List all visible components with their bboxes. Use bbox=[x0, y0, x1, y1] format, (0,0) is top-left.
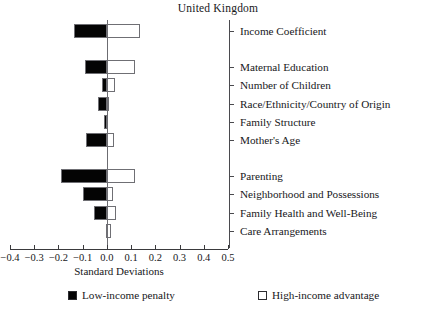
category-bracket-tick bbox=[229, 176, 234, 177]
x-axis-tick bbox=[180, 245, 181, 249]
category-label: Neighborhood and Possessions bbox=[240, 188, 379, 200]
x-axis-tick bbox=[131, 245, 132, 249]
category-label: Care Arrangements bbox=[240, 225, 327, 237]
legend-label: High-income advantage bbox=[272, 289, 379, 301]
category-label: Maternal Education bbox=[240, 61, 329, 73]
bar-row bbox=[10, 169, 228, 183]
category-label: Family Structure bbox=[240, 116, 316, 128]
category-label-panel: Income CoefficientMaternal EducationNumb… bbox=[229, 18, 436, 253]
legend-label: Low-income penalty bbox=[82, 289, 175, 301]
bar-segment-high-income-advantage bbox=[107, 133, 114, 147]
category-bracket-tick bbox=[229, 104, 234, 105]
legend-item[interactable]: Low-income penalty bbox=[68, 289, 175, 301]
category-label: Family Health and Well-Being bbox=[240, 207, 377, 219]
chart-legend: Low-income penaltyHigh-income advantage bbox=[0, 289, 436, 311]
bar-row bbox=[10, 78, 228, 92]
category-label: Parenting bbox=[240, 170, 283, 182]
bar-segment-high-income-advantage bbox=[107, 78, 115, 92]
bar-row bbox=[10, 224, 228, 238]
chart-figure: United Kingdom Standard Deviations Incom… bbox=[0, 0, 436, 315]
bar-segment-low-income-penalty bbox=[61, 169, 107, 183]
bar-row bbox=[10, 60, 228, 74]
bar-segment-high-income-advantage bbox=[107, 24, 140, 38]
x-axis-tick bbox=[10, 245, 11, 249]
x-axis-tick bbox=[155, 245, 156, 249]
bar-segment-low-income-penalty bbox=[85, 60, 107, 74]
bar-row bbox=[10, 187, 228, 201]
filled-square-icon bbox=[68, 291, 77, 300]
category-label: Number of Children bbox=[240, 79, 331, 91]
category-label: Income Coefficient bbox=[240, 25, 326, 37]
bar-segment-high-income-advantage bbox=[107, 224, 111, 238]
x-axis-tick bbox=[107, 245, 108, 249]
bar-segment-high-income-advantage bbox=[107, 206, 116, 220]
bar-segment-low-income-penalty bbox=[98, 97, 106, 111]
hollow-square-icon bbox=[258, 291, 267, 300]
legend-item[interactable]: High-income advantage bbox=[258, 289, 379, 301]
bar-segment-high-income-advantage bbox=[107, 187, 113, 201]
plot-area bbox=[10, 20, 228, 249]
bar-segment-high-income-advantage bbox=[107, 97, 109, 111]
bar-row bbox=[10, 133, 228, 147]
x-axis-tick bbox=[204, 245, 205, 249]
bar-segment-high-income-advantage bbox=[107, 169, 135, 183]
category-bracket-tick bbox=[229, 67, 234, 68]
bar-segment-low-income-penalty bbox=[104, 115, 107, 129]
bar-row bbox=[10, 97, 228, 111]
category-bracket-tick bbox=[229, 31, 234, 32]
x-axis-line bbox=[10, 249, 228, 250]
category-label: Race/Ethnicity/Country of Origin bbox=[240, 98, 390, 110]
category-bracket-tick bbox=[229, 231, 234, 232]
bar-segment-low-income-penalty bbox=[94, 206, 107, 220]
category-bracket-tick bbox=[229, 194, 234, 195]
x-axis-tick bbox=[34, 245, 35, 249]
bar-row bbox=[10, 24, 228, 38]
bar-segment-low-income-penalty bbox=[86, 133, 107, 147]
bar-segment-low-income-penalty bbox=[83, 187, 106, 201]
bar-segment-high-income-advantage bbox=[107, 60, 135, 74]
x-axis-title: Standard Deviations bbox=[10, 265, 228, 277]
category-bracket-spine bbox=[229, 20, 230, 248]
bar-row bbox=[10, 115, 228, 129]
category-bracket-tick bbox=[229, 213, 234, 214]
category-bracket-tick bbox=[229, 122, 234, 123]
x-axis-tick bbox=[83, 245, 84, 249]
x-axis-tick bbox=[58, 245, 59, 249]
bar-row bbox=[10, 206, 228, 220]
category-label: Mother's Age bbox=[240, 134, 300, 146]
x-axis-tick-label: 0.5 bbox=[211, 252, 245, 263]
chart-title: United Kingdom bbox=[0, 2, 436, 14]
category-bracket-tick bbox=[229, 85, 234, 86]
bar-segment-low-income-penalty bbox=[74, 24, 107, 38]
category-bracket-tick bbox=[229, 140, 234, 141]
